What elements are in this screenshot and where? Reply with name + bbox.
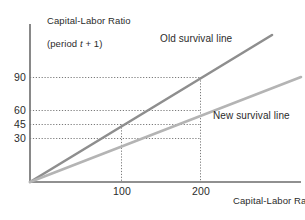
period-variable: t <box>80 38 83 49</box>
y-tick-label-45: 45 <box>4 118 26 130</box>
y-axis-title-line2: (period t + 1) <box>47 38 103 49</box>
series-line-new-survival <box>30 77 301 182</box>
x-axis-title-line1: Capital-Labor Ratio <box>233 195 305 206</box>
chart-figure: Capital-Labor Ratio (period t + 1) Capit… <box>0 0 305 220</box>
x-axis-title-line2: (period t) <box>222 218 305 220</box>
x-tick-label-200: 200 <box>187 185 215 197</box>
series-label-old-survival: Old survival line <box>160 33 232 45</box>
y-tick-label-90: 90 <box>4 71 26 83</box>
x-tick-label-100: 100 <box>108 185 136 197</box>
series-label-new-survival: New survival line <box>213 110 290 122</box>
y-tick-label-30: 30 <box>4 132 26 144</box>
y-tick-label-60: 60 <box>4 104 26 116</box>
y-axis-title-line1: Capital-Labor Ratio <box>47 15 131 26</box>
x-axis-title: Capital-Labor Ratio (period t) <box>222 184 305 220</box>
period-variable: t <box>283 218 286 220</box>
y-axis-title: Capital-Labor Ratio (period t + 1) <box>36 4 131 60</box>
